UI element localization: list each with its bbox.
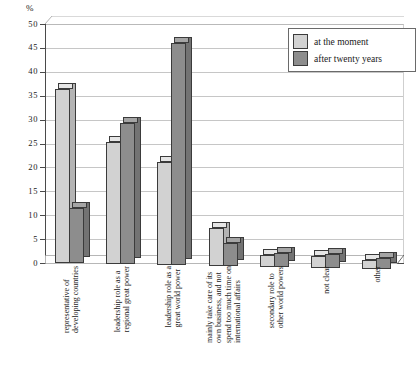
category-label-line: not clear [322,266,331,294]
x-axis-category-label: leadership role as agreat world power [148,266,199,382]
y-axis-tick-label-wrap: 10 [0,211,38,220]
legend-swatch-at-the-moment [293,34,308,49]
bar[interactable] [55,89,70,263]
bar-front-face [223,243,238,267]
y-axis-tick-label-wrap: 40 [0,67,38,76]
category-label-text: leadership role as aregional great power [113,266,132,332]
plot-top-edge [45,16,404,24]
category-label-text: mainly take care of itsown business, and… [206,266,243,343]
x-axis-category-labels: representative ofdeveloping countrieslea… [45,266,404,384]
category-label-line: regional great power [122,266,131,332]
y-axis-tick-label: 35 [2,91,38,100]
category-label-text: representative ofdeveloping countries [61,266,80,333]
bar[interactable] [69,208,84,263]
legend-label: at the moment [314,37,368,47]
legend-label: after twenty years [314,54,382,64]
legend: at the moment after twenty years [288,28,416,72]
category-label-line: leadership role as a [113,266,122,332]
y-axis-tick-label: 25 [2,139,38,148]
x-axis-category-label: representative ofdeveloping countries [45,266,96,382]
x-axis-category-label: secondary role toother world powers [250,266,301,382]
category-label-text: secondary role toother world powers [266,266,285,328]
bar-side-face [84,202,90,257]
y-axis-tick-label: 20 [2,163,38,172]
y-axis-tick-label-wrap: 15 [0,187,38,196]
bar-front-face [120,123,135,264]
category-label-line: secondary role to [266,266,275,328]
bar[interactable] [157,162,172,265]
category-label-line: representative of [61,266,70,333]
bar-top-face [123,117,138,123]
category-label-line: other [374,266,383,282]
category-label-line: developing countries [71,266,80,333]
bar-front-face [106,142,121,264]
bar-front-face [55,89,70,263]
bar[interactable] [106,142,121,264]
category-label-line: spend too much time on [224,266,233,343]
bar-top-face [58,83,73,89]
category-label-line: great world power [173,266,182,328]
y-axis-tick-label: 50 [2,20,38,29]
bar-top-face [72,202,87,208]
bar-side-face [186,37,192,259]
y-axis-tick-label-wrap: 20 [0,163,38,172]
bar-chart: % 05101520253035404550 at the moment aft… [0,0,420,386]
bar-top-face [174,37,189,43]
bar[interactable] [209,228,224,266]
x-axis-category-label: not clear [301,266,352,382]
category-label-line: leadership role as a [164,266,173,328]
y-axis-tick-label-wrap: 30 [0,115,38,124]
y-axis-unit-label: % [26,3,34,13]
y-axis-tick-label: 15 [2,187,38,196]
bar-front-face [171,43,186,265]
bar-top-face [212,222,227,228]
x-axis-category-label: leadership role as aregional great power [96,266,147,382]
bar-top-face [379,252,394,258]
y-axis-tick-label-wrap: 35 [0,91,38,100]
bar-top-face [226,237,241,243]
y-axis-tick-label: 5 [2,235,38,244]
category-label-text: other [374,266,383,282]
y-axis-tick-label: 30 [2,115,38,124]
category-label-text: leadership role as agreat world power [164,266,183,328]
category-label-line: own business, and not [215,266,224,343]
bar[interactable] [120,123,135,264]
y-axis-tick-label-wrap: 50 [0,20,38,29]
x-axis-category-label: other [353,266,404,382]
legend-item[interactable]: after twenty years [293,50,410,67]
category-label-line: international affairs [234,266,243,343]
bar-top-face [328,248,343,254]
legend-swatch-after-twenty-years [293,51,308,66]
bar[interactable] [171,43,186,265]
bar-side-face [135,117,141,258]
y-axis-tick-label: 0 [2,259,38,268]
y-axis-tick-label-wrap: 25 [0,139,38,148]
y-axis-tick-label: 45 [2,43,38,52]
y-axis-tick-label: 40 [2,67,38,76]
category-label-line: other world powers [276,266,285,328]
bar-front-face [209,228,224,266]
x-axis-category-label: mainly take care of itsown business, and… [199,266,250,382]
bar-top-face [277,247,292,253]
y-axis-tick-label-wrap: 45 [0,43,38,52]
bar[interactable] [223,243,238,267]
y-axis-tick-label: 10 [2,211,38,220]
y-axis-tick-label-wrap: 5 [0,235,38,244]
bar-front-face [69,208,84,263]
bar-front-face [157,162,172,265]
legend-item[interactable]: at the moment [293,33,410,50]
y-axis-tick-label-wrap: 0 [0,259,38,268]
category-label-text: not clear [322,266,331,294]
